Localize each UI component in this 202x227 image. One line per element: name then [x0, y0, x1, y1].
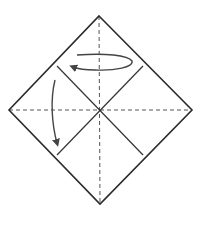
- origami-diagram: Square sheet oriented as a diamond with …: [0, 0, 202, 227]
- fold-down-arrow-icon: [52, 80, 57, 143]
- diagram-svg: [0, 0, 202, 227]
- rotate-arrow-icon: [73, 54, 132, 70]
